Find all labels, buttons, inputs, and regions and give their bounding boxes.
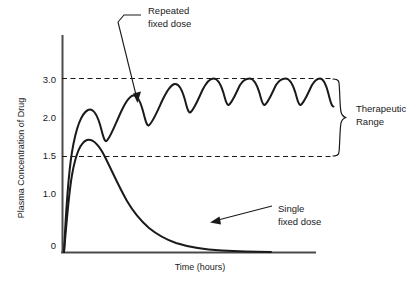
y-axis-title: Plasma Concentration of Drug xyxy=(16,98,26,219)
y-tick-label-3-0: 3.0 xyxy=(43,74,56,85)
single-fixed-dose-label-line1: Single xyxy=(278,203,304,214)
x-axis-title: Time (hours) xyxy=(175,262,226,272)
y-tick-label-0: 0 xyxy=(51,240,56,251)
therapeutic-range-label-line2: Range xyxy=(356,116,384,127)
pharmacokinetics-chart: 3.0 2.0 1.5 1.0 0 Plasma Concentration o… xyxy=(0,0,416,283)
y-tick-label-1-0: 1.0 xyxy=(43,188,56,199)
repeated-fixed-dose-label-line1: Repeated xyxy=(148,5,189,16)
single-fixed-dose-label-line2: fixed dose xyxy=(278,216,321,227)
y-tick-label-2-0: 2.0 xyxy=(43,112,56,123)
repeated-fixed-dose-label-line2: fixed dose xyxy=(148,18,191,29)
y-tick-label-1-5: 1.5 xyxy=(43,150,56,161)
therapeutic-range-label-line1: Therapeutic xyxy=(356,103,406,114)
